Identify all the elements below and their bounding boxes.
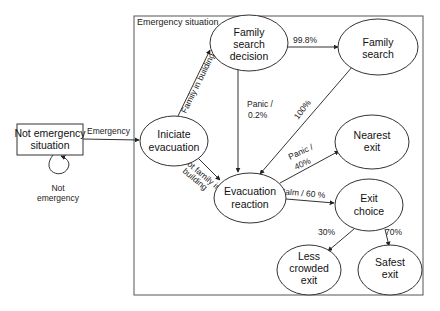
state-diagram: Emergency situation Emergency Not emerge… (0, 0, 440, 311)
node-label: reaction (231, 198, 269, 210)
node-label: situation (30, 139, 69, 151)
edge-label-panic-decision-1: Panic / (247, 99, 274, 109)
node-label: evacuation (149, 141, 200, 153)
node-iniciate-evacuation: Iniciate evacuation (140, 116, 208, 166)
edge-label-family-in-building: Family in building (179, 51, 217, 115)
edge-emergency (82, 139, 139, 140)
node-label: choice (354, 205, 385, 217)
edge-label-99-8: 99.8% (293, 35, 318, 45)
node-label: search (362, 48, 394, 60)
node-exit-choice: Exit choice (335, 179, 403, 231)
node-label: Family (234, 26, 266, 38)
edge-label-30: 30% (318, 227, 335, 237)
node-label: Family (363, 36, 395, 48)
node-label: exit (364, 141, 380, 153)
node-not-emergency-situation: Not emergency situation (14, 124, 86, 155)
edge-label-emergency: Emergency (87, 126, 131, 136)
node-label: Iniciate (157, 128, 190, 140)
node-label: exit (301, 274, 317, 286)
node-evacuation-reaction: Evacuation reaction (214, 173, 286, 223)
node-label: crowded (289, 262, 329, 274)
node-label: decision (230, 50, 269, 62)
edge-calm (286, 199, 334, 203)
node-label: exit (382, 268, 398, 280)
node-label: Nearest (354, 129, 391, 141)
edge-label-panic-decision-2: 0.2% (248, 110, 268, 120)
edge-self-loop (49, 155, 69, 174)
node-label: Less (298, 250, 320, 262)
frame-label: Emergency situation (137, 17, 219, 27)
node-family-search: Family search (338, 19, 418, 75)
node-label: Safest (375, 256, 405, 268)
node-safest-exit: Safest exit (358, 245, 422, 295)
node-label: Not emergency (14, 127, 86, 139)
node-family-search-decision: Family search decision (210, 15, 288, 71)
edge-label-100: 100% (292, 98, 314, 122)
node-less-crowded-exit: Less crowded exit (277, 245, 341, 295)
node-label: Exit (360, 192, 378, 204)
edge-label-70: 70% (385, 227, 402, 237)
node-label: Evacuation (224, 185, 276, 197)
edge-label-not-emergency-2: emergency (37, 193, 80, 203)
edge-label-not-emergency-1: Not (51, 183, 65, 193)
node-nearest-exit: Nearest exit (335, 115, 409, 169)
node-label: search (233, 38, 265, 50)
